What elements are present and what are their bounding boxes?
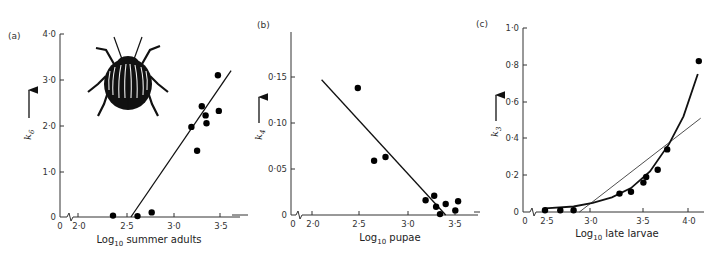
svg-text:0: 0	[51, 212, 56, 222]
data-point	[202, 112, 208, 118]
svg-text:3·5: 3·5	[448, 219, 462, 229]
svg-text:2·0: 2·0	[42, 121, 56, 131]
svg-text:3·0: 3·0	[401, 219, 415, 229]
data-point	[194, 148, 200, 154]
panel-a-y-title: k6	[22, 129, 36, 140]
panel-c-exponential-curve	[545, 74, 698, 208]
data-point	[437, 211, 443, 217]
data-point	[110, 212, 116, 218]
data-point	[640, 179, 646, 185]
figure-canvas: (a) 4·0 3·0 2·0 1·0 0 0 2·0 2·5 3·0 3·5 …	[0, 0, 721, 254]
svg-text:2·0: 2·0	[72, 221, 86, 231]
data-point	[616, 190, 622, 196]
panel-c-y-ticks: 1·0 0·8 0·6 0·4 0·2 0	[505, 23, 519, 217]
svg-text:3·5: 3·5	[636, 216, 650, 226]
svg-text:3·0: 3·0	[167, 221, 181, 231]
panel-a-x-title: Log10 summer adults	[96, 234, 201, 248]
panel-b-data-points	[355, 85, 462, 218]
panel-b-y-ticks: 0·15 0·10 0·05 0	[268, 72, 287, 220]
svg-text:2·5: 2·5	[120, 221, 134, 231]
data-point	[542, 207, 548, 213]
data-point	[199, 103, 205, 109]
data-point	[431, 193, 437, 199]
data-point	[570, 207, 576, 213]
data-point	[455, 198, 461, 204]
panel-c-y-title: k3	[489, 126, 503, 137]
svg-text:2·5: 2·5	[352, 219, 366, 229]
panel-a-label: (a)	[8, 31, 21, 41]
data-point	[696, 58, 702, 64]
svg-text:3·0: 3·0	[584, 216, 598, 226]
panel-c-x-axis	[523, 208, 704, 216]
panel-b-x-title: Log10 pupae	[359, 232, 420, 246]
svg-text:0·15: 0·15	[268, 72, 287, 82]
data-point	[215, 72, 221, 78]
panel-c: (c) 1·0 0·8 0·6 0·4 0·2 0 0 2·5 3·0 3·5 …	[474, 19, 704, 242]
svg-text:0: 0	[290, 219, 295, 229]
panel-c-x-title: Log10 late larvae	[575, 228, 658, 242]
data-point	[433, 204, 439, 210]
data-point	[216, 108, 222, 114]
data-point	[422, 197, 428, 203]
data-point	[643, 174, 649, 180]
panel-b-label: (b)	[257, 20, 270, 30]
data-point	[452, 207, 458, 213]
panel-a-x-ticks: 0 2·0 2·5 3·0 3·5	[57, 221, 227, 231]
svg-text:4·0: 4·0	[682, 216, 696, 226]
data-point	[664, 146, 670, 152]
svg-text:0·2: 0·2	[505, 170, 519, 180]
svg-text:1·0: 1·0	[505, 23, 519, 33]
svg-text:0·10: 0·10	[268, 118, 287, 128]
svg-text:2·5: 2·5	[540, 216, 554, 226]
svg-text:0·4: 0·4	[505, 133, 519, 143]
data-point	[134, 213, 140, 219]
svg-text:0: 0	[514, 207, 519, 217]
data-point	[371, 158, 377, 164]
svg-text:1·0: 1·0	[42, 167, 56, 177]
panel-a: (a) 4·0 3·0 2·0 1·0 0 0 2·0 2·5 3·0 3·5 …	[8, 29, 240, 248]
data-point	[382, 154, 388, 160]
data-point	[188, 124, 194, 130]
data-point	[203, 120, 209, 126]
svg-text:0: 0	[282, 210, 287, 220]
svg-text:4·0: 4·0	[42, 29, 56, 39]
panel-c-label: (c)	[476, 19, 488, 29]
panel-a-y-ticks: 4·0 3·0 2·0 1·0 0	[42, 29, 56, 222]
data-point	[557, 207, 563, 213]
panel-c-linear-fit-line	[579, 118, 700, 212]
svg-text:2·0: 2·0	[306, 219, 320, 229]
svg-text:0: 0	[57, 221, 62, 231]
svg-text:0·6: 0·6	[505, 97, 519, 107]
svg-text:0·05: 0·05	[268, 164, 287, 174]
data-point	[628, 189, 634, 195]
panel-b: (b) 0·15 0·10 0·05 0 0 2·0 2·5 3·0 3·5 L…	[232, 20, 478, 246]
data-point	[149, 209, 155, 215]
panel-b-x-ticks: 0 2·0 2·5 3·0 3·5	[290, 219, 461, 229]
svg-text:3·5: 3·5	[214, 221, 228, 231]
svg-text:3·0: 3·0	[42, 75, 56, 85]
svg-text:0: 0	[522, 216, 527, 226]
data-point	[355, 85, 361, 91]
data-point	[443, 201, 449, 207]
panel-b-y-title: k4	[253, 129, 267, 140]
panel-b-regression-line	[322, 80, 446, 215]
panel-c-x-ticks: 0 2·5 3·0 3·5 4·0	[522, 216, 695, 226]
panel-b-x-axis	[291, 211, 478, 219]
svg-text:0·8: 0·8	[505, 60, 519, 70]
beetle-icon	[88, 37, 168, 116]
data-point	[655, 167, 661, 173]
